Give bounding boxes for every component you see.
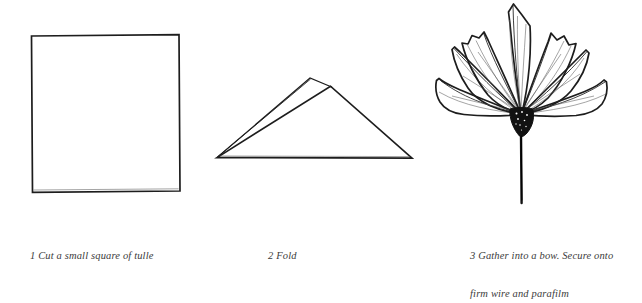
gather-crease-lines [452,52,594,113]
step-3-caption: 3 Gather into a bow. Secure onto firm wi… [470,225,613,303]
step-3-panel: 3 Gather into a bow. Secure onto firm wi… [430,0,642,256]
step-2-panel: 2 Fold [200,0,430,256]
bound-knot [510,108,534,137]
step-1-caption-line-1: 1 Cut a small square of tulle [30,250,154,263]
square-of-tulle-illustration [0,0,210,215]
step-1-panel: 1 Cut a small square of tulle [0,0,210,256]
tulle-square-outline [32,35,181,193]
step-2-caption: 2 Fold [268,225,297,288]
triangle-base-shadow [220,156,411,157]
step-3-caption-line-1: 3 Gather into a bow. Secure onto [470,250,613,263]
gathered-bow-illustration [430,0,642,215]
triangle-lower-layer [217,86,412,158]
step-2-caption-line-1: 2 Fold [268,250,297,263]
triangle-upper-flap [218,78,332,157]
step-3-caption-line-2: firm wire and parafilm [470,288,613,301]
folded-triangle-illustration [200,0,430,215]
step-1-caption: 1 Cut a small square of tulle [30,225,154,288]
wire-stem [521,134,522,203]
